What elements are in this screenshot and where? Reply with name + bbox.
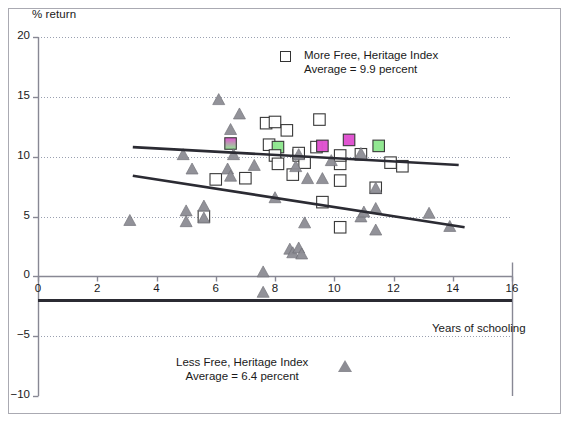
data-point-square [281, 125, 293, 137]
x-tick-label: 4 [145, 282, 169, 294]
x-tick-label: 6 [204, 282, 228, 294]
less-free-trend [133, 176, 465, 227]
data-point-triangle [302, 173, 314, 184]
x-tick-label: 0 [26, 282, 50, 294]
y-tick-label: −5 [4, 328, 30, 340]
data-point-square [373, 140, 385, 152]
data-point-square [210, 174, 222, 186]
x-tick-label: 14 [441, 282, 465, 294]
data-point-square [225, 138, 237, 150]
data-point-square [343, 134, 355, 146]
data-point-triangle [225, 124, 237, 135]
x-tick-label: 16 [500, 282, 524, 294]
data-point-triangle [180, 205, 192, 216]
data-point-square [269, 116, 281, 128]
data-point-triangle [198, 200, 210, 211]
y-tick-label: 10 [4, 149, 30, 161]
y-tick-label: 20 [4, 29, 30, 41]
data-point-triangle [213, 94, 225, 105]
legend-less-free: Less Free, Heritage Index Average = 6.4 … [176, 355, 308, 383]
x-tick-label: 8 [263, 282, 287, 294]
data-point-square [240, 172, 252, 184]
data-point-triangle [316, 173, 328, 184]
y-tick-label: 5 [4, 209, 30, 221]
data-point-square [272, 158, 284, 170]
y-tick-label: 0 [4, 268, 30, 280]
legend-more-free-line2: Average = 9.9 percent [304, 62, 438, 76]
data-point-square [317, 140, 329, 152]
chart-frame [9, 9, 561, 414]
x-tick-label: 10 [322, 282, 346, 294]
data-point-triangle [299, 217, 311, 228]
data-point-triangle [180, 216, 192, 227]
y-tick-label: −10 [4, 388, 30, 400]
legend-less-free-line2: Average = 6.4 percent [176, 369, 308, 383]
chart-figure: % return Years of schooling 20151050−5−1… [0, 0, 568, 427]
data-point-square [314, 114, 326, 126]
x-tick-label: 2 [85, 282, 109, 294]
legend-square-marker-icon [280, 51, 291, 62]
y-tick-label: 15 [4, 89, 30, 101]
data-point-triangle [370, 224, 382, 235]
data-point-triangle [233, 108, 245, 119]
data-point-square [334, 175, 346, 187]
data-point-triangle [186, 163, 198, 174]
legend-more-free-line1: More Free, Heritage Index [304, 48, 438, 62]
data-point-triangle [423, 207, 435, 218]
data-point-triangle [248, 159, 260, 170]
x-axis-label: Years of schooling [432, 322, 526, 334]
legend-less-free-line1: Less Free, Heritage Index [176, 355, 308, 369]
y-axis-label: % return [32, 8, 76, 20]
data-point-square [334, 222, 346, 234]
data-point-triangle [257, 266, 269, 277]
x-tick-label: 12 [382, 282, 406, 294]
data-point-triangle [124, 214, 136, 225]
legend-more-free: More Free, Heritage Index Average = 9.9 … [304, 48, 438, 76]
legend-triangle-marker-icon [338, 360, 352, 372]
